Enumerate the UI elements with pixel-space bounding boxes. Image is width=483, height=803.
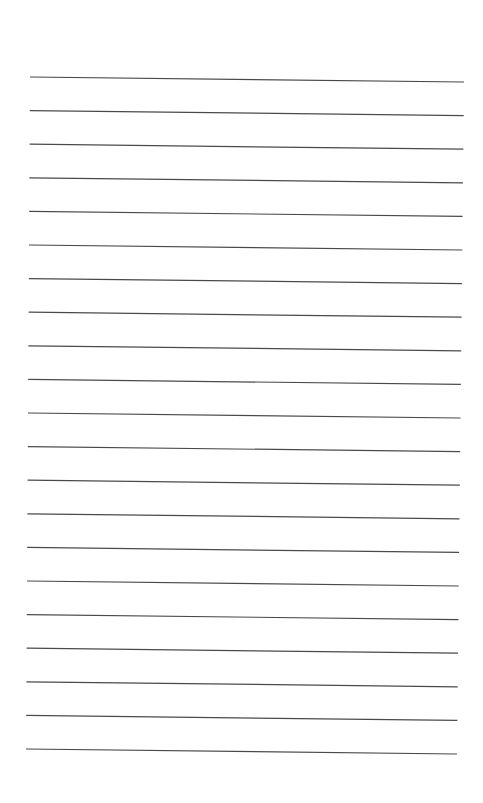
- ruled-line: [29, 245, 462, 250]
- ruled-line: [30, 144, 464, 149]
- ruled-line: [29, 211, 462, 216]
- ruled-line: [26, 715, 457, 720]
- lined-paper-page: [0, 0, 483, 803]
- ruled-line: [28, 379, 461, 384]
- ruled-line: [28, 480, 460, 485]
- ruled-line: [30, 111, 464, 116]
- ruled-line: [26, 749, 457, 754]
- ruled-line: [27, 514, 459, 519]
- ruled-line: [26, 682, 457, 687]
- ruled-line: [29, 178, 463, 183]
- ruled-line: [27, 581, 459, 586]
- ruled-line: [27, 615, 459, 620]
- ruled-lines: [0, 0, 483, 803]
- ruled-line: [28, 346, 461, 351]
- ruled-line: [29, 279, 462, 284]
- ruled-line: [28, 447, 460, 452]
- ruled-line: [28, 413, 461, 418]
- ruled-line: [27, 547, 459, 552]
- ruled-line: [27, 648, 458, 653]
- ruled-line: [29, 312, 462, 317]
- ruled-line: [30, 77, 464, 82]
